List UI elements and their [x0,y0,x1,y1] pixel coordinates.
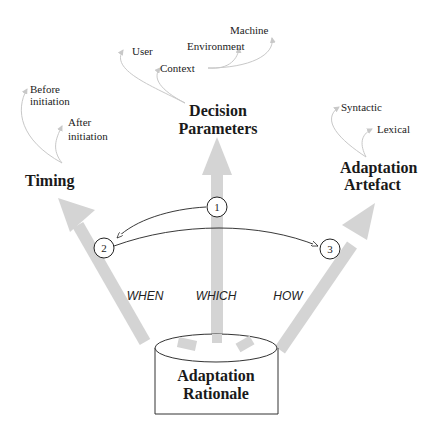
curves-artefact [331,107,372,157]
source-title-line1: Adaptation [177,367,254,385]
timing-before-line2: initiation [30,95,70,107]
arrow-when [58,198,145,342]
label-when: WHEN [127,289,164,303]
step-circle-1: 1 [207,197,227,217]
artefact-title-line2: Artefact [344,176,402,193]
adaptation-rationale-store: Adaptation Rationale [155,334,278,414]
decision-environment: Environment [187,40,244,52]
decision-title-line1: Decision [189,102,247,119]
diagram-svg: 1 2 3 WHEN WHICH HOW Adaptation Rational… [0,0,445,437]
timing-before-line1: Before [30,83,60,95]
step-3-label: 3 [327,243,333,255]
arrow-how [280,203,375,350]
decision-machine: Machine [230,24,269,36]
decision-title-line2: Parameters [178,120,257,137]
source-title-line2: Rationale [183,385,249,402]
label-which: WHICH [196,289,237,303]
timing-after-line2: initiation [68,130,108,142]
step-circle-3: 3 [320,239,340,259]
timing-title: Timing [25,172,75,190]
step-circle-2: 2 [94,238,114,258]
step-2-label: 2 [101,242,107,254]
decision-user: User [132,45,153,57]
timing-after-line1: After [68,116,92,128]
decision-context: Context [160,62,195,74]
artefact-title-line1: Adaptation [340,159,417,177]
artefact-lexical: Lexical [377,123,410,135]
arrow-which [202,137,232,345]
artefact-syntactic: Syntactic [341,101,382,113]
diagram-canvas: 1 2 3 WHEN WHICH HOW Adaptation Rational… [0,0,445,437]
step-1-label: 1 [214,201,220,213]
label-how: HOW [273,289,304,303]
